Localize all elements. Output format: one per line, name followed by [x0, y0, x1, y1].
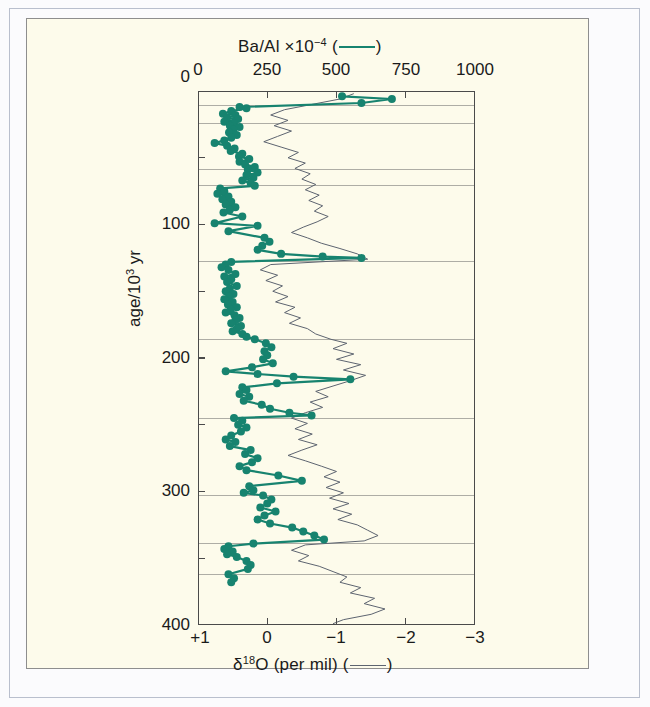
- bottom-tick-label-0: 0: [262, 628, 271, 648]
- top-tick-label-500: 500: [322, 60, 350, 80]
- bottom-tick-label-neg1: −1: [326, 628, 345, 648]
- bottom-axis-caption: δ18O (per mil) (): [233, 654, 393, 675]
- top-tick-label-750: 750: [392, 60, 420, 80]
- plot-area: [198, 91, 475, 625]
- bottom-axis-label-delta: δ: [233, 655, 243, 674]
- y-tick-label-0: 0: [158, 67, 190, 87]
- y-tick-label-400: 400: [146, 615, 190, 635]
- bottom-tick-label-neg2: −2: [396, 628, 415, 648]
- top-axis-label-text: Ba/Al ×10: [238, 37, 314, 56]
- bottom-axis-label-element: O: [255, 655, 268, 674]
- bottom-axis-label-units: (per mil): [274, 655, 338, 674]
- y-axis-caption: age/103 yr: [124, 250, 145, 330]
- top-axis-legend-paren-close: ): [376, 37, 382, 56]
- top-axis-legend-line-icon: [339, 46, 375, 48]
- bottom-axis-legend-paren-open: (: [343, 655, 349, 674]
- top-axis-label-exponent: −4: [314, 36, 327, 48]
- top-tick-label-0: 0: [193, 60, 202, 80]
- top-axis-legend-paren-open: (: [332, 37, 338, 56]
- bottom-axis-legend-line-icon: [350, 665, 386, 666]
- y-tick-label-200: 200: [146, 348, 190, 368]
- bottom-axis-label-exponent: 18: [243, 654, 256, 666]
- y-axis-caption-exponent: 3: [124, 269, 136, 275]
- d18o-series-line: [260, 94, 385, 624]
- page-background: Ba/Al ×10−4 () δ18O (per mil) () age/103…: [0, 0, 650, 707]
- top-tick-label-1000: 1000: [456, 60, 494, 80]
- y-tick-label-100: 100: [146, 214, 190, 234]
- top-axis-caption: Ba/Al ×10−4 (): [238, 36, 382, 57]
- bottom-axis-legend-paren-close: ): [387, 655, 393, 674]
- bottom-tick-label-neg3: −3: [465, 628, 484, 648]
- chart-svg: [198, 91, 475, 625]
- y-tick-label-300: 300: [146, 481, 190, 501]
- top-tick-label-250: 250: [253, 60, 281, 80]
- bottom-tick-label-plus1: +1: [190, 628, 209, 648]
- stage-boundary-lines: [198, 106, 475, 575]
